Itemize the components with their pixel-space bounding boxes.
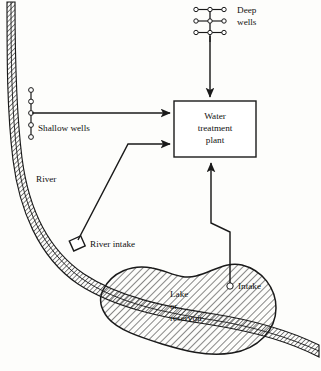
river-intake-group[interactable] (69, 236, 85, 251)
deep-well-circle[interactable] (194, 30, 198, 34)
deep-well-circle[interactable] (208, 7, 212, 11)
deep-wells-label-line1: Deep (237, 5, 257, 15)
deep-well-circle[interactable] (222, 30, 226, 34)
lake-intake-label: Intake (238, 281, 261, 291)
deep-well-circle[interactable] (194, 19, 198, 23)
deep-well-circle[interactable] (194, 7, 198, 11)
lake-blob (101, 264, 276, 354)
river-label: River (36, 174, 56, 184)
river-intake-box[interactable] (69, 236, 85, 251)
plant-label-line2: treatment (198, 123, 233, 133)
shallow-well-circle[interactable] (29, 88, 34, 93)
lake-intake-circle[interactable] (227, 283, 233, 289)
plant-label-line1: Water (204, 111, 226, 121)
shallow-wells-label: Shallow wells (38, 123, 90, 133)
lake-group (101, 264, 276, 354)
lake-label-line1: Lake (170, 289, 188, 299)
lake-intake-group[interactable] (227, 283, 233, 289)
water-treatment-plant[interactable]: Water treatment plant (174, 101, 256, 157)
plant-label-line3: plant (206, 135, 225, 145)
water-supply-diagram-figure: River Lake or reservoir Water treatment … (0, 0, 321, 371)
lake-label-line3: reservoir (170, 313, 203, 323)
deep-well-circle[interactable] (222, 7, 226, 11)
deep-well-circle[interactable] (208, 19, 212, 23)
deep-well-circle[interactable] (208, 30, 212, 34)
water-supply-schematic: River Lake or reservoir Water treatment … (0, 0, 321, 371)
shallow-well-circle[interactable] (29, 135, 34, 140)
shallow-well-circle[interactable] (29, 99, 34, 104)
deep-well-circle[interactable] (222, 19, 226, 23)
river-intake-label: River intake (90, 239, 135, 249)
shallow-well-circle[interactable] (29, 123, 34, 128)
deep-wells-label-line2: wells (237, 17, 257, 27)
lake-label-line2: or (170, 301, 177, 311)
river-intake-to-plant-arrow (78, 144, 170, 240)
